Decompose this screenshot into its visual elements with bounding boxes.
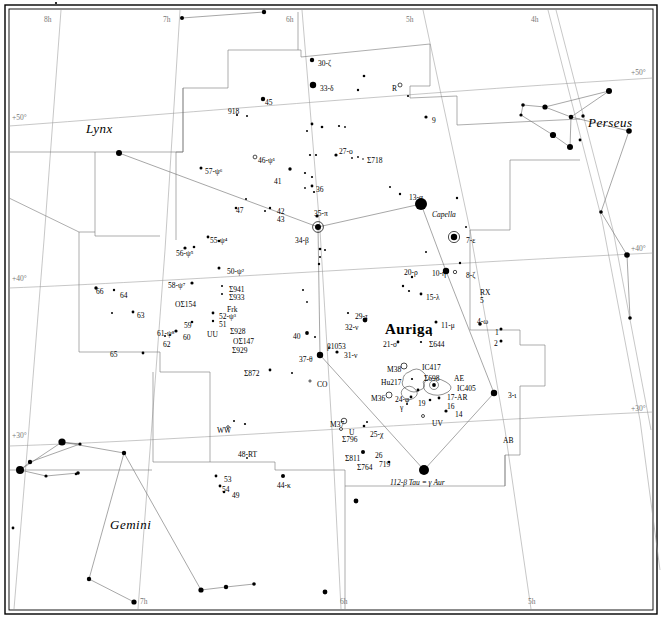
star-label: 57-ψ⁶	[205, 168, 222, 176]
star-label: 15-λ	[426, 294, 440, 302]
star-label: WW	[217, 427, 231, 435]
ra-tick-label-bottom: 6h	[340, 598, 348, 606]
star-label: R	[392, 85, 397, 93]
star-label: 34-β	[295, 237, 309, 245]
star-label: Σ933	[229, 294, 245, 302]
star-label: 3-ι	[508, 392, 516, 400]
star-label: 21-σ	[383, 341, 397, 349]
star-label: 45	[265, 99, 273, 107]
star-label: 9	[432, 117, 436, 125]
star-label: Capella	[432, 211, 456, 219]
star-label: Σ718	[367, 157, 383, 165]
dec-tick-label-left: +50°	[12, 114, 27, 122]
star-label: AB	[503, 437, 513, 445]
star-label: 14	[455, 411, 463, 419]
constellation-name: Lynx	[86, 122, 113, 135]
ra-tick-label-bottom: 5h	[528, 598, 536, 606]
star-label: 37-θ	[299, 356, 313, 364]
star-label: Σ929	[232, 347, 248, 355]
star-label: 61-ψ⁸	[157, 330, 174, 338]
star-label: Σ698	[424, 375, 440, 383]
star-label: 59	[184, 322, 192, 330]
star-label: 112-β Tau = γ Aur	[390, 479, 445, 487]
star-label: Hu217	[381, 379, 401, 387]
star-label: 4-ω	[477, 318, 488, 326]
dec-tick-label-right: +30°	[631, 405, 646, 413]
star-label: 27-o	[339, 148, 353, 156]
star-label: UU	[207, 331, 218, 339]
star-label: 41	[274, 178, 282, 186]
star-label: 20-ρ	[404, 269, 418, 277]
ra-tick-label-top: 5h	[406, 16, 414, 24]
star-label: 10-η	[432, 270, 446, 278]
star-label: 60	[183, 334, 191, 342]
dec-tick-label-left: +40°	[12, 275, 27, 283]
constellation-name: Perseus	[588, 116, 633, 129]
star-label: Σ796	[342, 436, 358, 444]
star-label: 16	[447, 403, 455, 411]
chart-overlay: 30-ζ33-δR45918957-ψ⁶46-ψ¹27-oΣ7184136474…	[0, 0, 662, 619]
ra-tick-label-top: 7h	[163, 16, 171, 24]
star-label: M36	[371, 395, 385, 403]
star-label: 32-ν	[345, 324, 358, 332]
star-label: 35-π	[314, 210, 328, 218]
star-label: 55-ψ⁴	[210, 237, 227, 245]
star-label: 56-ψ⁵	[176, 250, 193, 258]
ra-tick-label-top: 8h	[44, 16, 52, 24]
star-label: Σ644	[429, 341, 445, 349]
star-label: 2	[494, 340, 498, 348]
star-label: 58-ψ⁷	[168, 282, 185, 290]
star-label: 36	[316, 186, 324, 194]
star-label: 29-τ	[355, 313, 368, 321]
star-label: 62	[163, 341, 171, 349]
star-label: 47	[236, 207, 244, 215]
ra-tick-label-top: 6h	[286, 16, 294, 24]
star-label: 44-κ	[277, 482, 291, 490]
star-label: 5	[480, 297, 484, 305]
star-label: 13-α	[409, 194, 423, 202]
constellation-name: Auriga	[385, 322, 433, 337]
star-label: 48-RT	[238, 451, 257, 459]
star-label: OΣ147	[233, 338, 254, 346]
star-label: 918	[228, 108, 239, 116]
ra-tick-label-bottom: 7h	[140, 598, 148, 606]
constellation-name: Gemini	[110, 518, 151, 531]
star-label: UV	[432, 420, 443, 428]
star-label: OΣ154	[175, 301, 196, 309]
star-label: IC405	[457, 385, 476, 393]
star-label: 7-ε	[466, 237, 475, 245]
star-label: IC417	[422, 364, 441, 372]
star-label: 8-ζ	[466, 272, 475, 280]
star-label: 43	[277, 216, 285, 224]
star-label: Σ764	[357, 464, 373, 472]
star-label: M37	[330, 421, 344, 429]
dec-tick-label-right: +40°	[631, 245, 646, 253]
star-chart: 30-ζ33-δR45918957-ψ⁶46-ψ¹27-oΣ7184136474…	[0, 0, 662, 619]
dec-tick-label-right: +50°	[631, 69, 646, 77]
star-label: 65	[110, 351, 118, 359]
star-label: 46-ψ¹	[258, 157, 275, 165]
ra-tick-label-top: 4h	[531, 16, 539, 24]
star-label: 63	[137, 312, 145, 320]
star-label: 719	[379, 461, 390, 469]
star-label: 54	[222, 486, 230, 494]
star-label: Σ811	[345, 455, 360, 463]
star-label: 1	[495, 329, 499, 337]
star-label: AE	[454, 375, 464, 383]
star-label: 30-ζ	[318, 60, 331, 68]
star-label: 11-μ	[441, 322, 455, 330]
star-label: 33-δ	[320, 85, 334, 93]
star-label: 53	[224, 476, 232, 484]
star-label: Σ872	[244, 370, 260, 378]
star-label: 50-ψ²	[227, 268, 244, 276]
star-label: 49	[232, 492, 240, 500]
star-label: β1053	[327, 343, 346, 351]
star-label: M38	[387, 366, 401, 374]
star-label: Σ928	[230, 328, 246, 336]
star-label: 19	[418, 400, 426, 408]
star-label: 51	[219, 321, 227, 329]
star-label: 26	[375, 452, 383, 460]
star-label: 40	[293, 333, 301, 341]
star-label: 17-AR	[447, 394, 467, 402]
star-label: 66	[96, 288, 104, 296]
